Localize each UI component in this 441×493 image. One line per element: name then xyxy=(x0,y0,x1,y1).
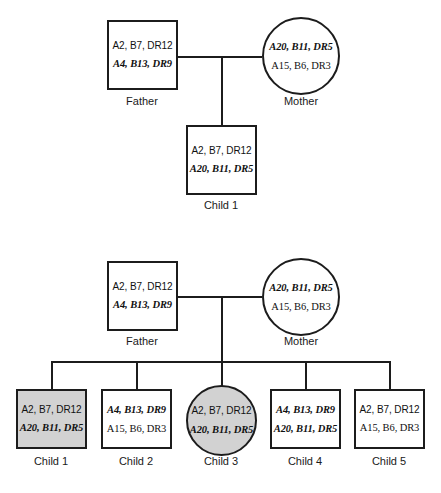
mating-line-1 xyxy=(178,56,262,58)
p2-child-4-haplotype-top: A4, B13, DR9 xyxy=(276,404,335,415)
p2-father-label: Father xyxy=(92,335,192,347)
p1-mother-haplotype-bottom: A15, B6, DR3 xyxy=(271,60,330,71)
p2-child-4-symbol[interactable]: A4, B13, DR9 A20, B11, DR5 xyxy=(270,389,341,449)
sibship-drop-child-2 xyxy=(136,361,138,390)
p2-child-3-haplotype-top: A2, B7, DR12 xyxy=(192,406,252,417)
p2-child-3-symbol[interactable]: A2, B7, DR12 A20, B11, DR5 xyxy=(186,385,257,456)
p2-father-haplotype-top: A2, B7, DR12 xyxy=(113,282,173,293)
p2-mother-symbol[interactable]: A20, B11, DR5 A15, B6, DR3 xyxy=(262,258,340,336)
descent-line-2 xyxy=(221,296,223,363)
p1-child-1-label: Child 1 xyxy=(171,199,271,211)
descent-line-1 xyxy=(221,56,223,125)
p1-child-1-symbol[interactable]: A2, B7, DR12 A20, B11, DR5 xyxy=(186,125,257,195)
pedigree-diagram: A2, B7, DR12 A4, B13, DR9 Father A20, B1… xyxy=(0,0,441,493)
p2-child-5-label: Child 5 xyxy=(339,455,439,467)
p1-father-symbol[interactable]: A2, B7, DR12 A4, B13, DR9 xyxy=(107,20,178,90)
p1-mother-label: Mother xyxy=(251,95,351,107)
p2-child-2-haplotype-bottom: A15, B6, DR3 xyxy=(107,423,166,434)
p2-child-1-symbol[interactable]: A2, B7, DR12 A20, B11, DR5 xyxy=(16,389,87,449)
sibship-drop-child-5 xyxy=(389,361,391,390)
sibship-drop-child-4 xyxy=(305,361,307,390)
p1-father-haplotype-top: A2, B7, DR12 xyxy=(113,41,173,52)
p2-mother-haplotype-bottom: A15, B6, DR3 xyxy=(271,301,330,312)
p2-child-5-haplotype-bottom: A15, B6, DR3 xyxy=(360,422,419,433)
p1-mother-haplotype-top: A20, B11, DR5 xyxy=(269,41,332,52)
p2-child-3-haplotype-bottom: A20, B11, DR5 xyxy=(190,424,253,435)
p2-child-1-haplotype-top: A2, B7, DR12 xyxy=(22,405,82,416)
p1-child-1-haplotype-top: A2, B7, DR12 xyxy=(192,146,252,157)
p1-child-1-haplotype-bottom: A20, B11, DR5 xyxy=(190,163,253,174)
p2-child-2-haplotype-top: A4, B13, DR9 xyxy=(107,404,166,415)
p2-child-5-haplotype-top: A2, B7, DR12 xyxy=(360,405,420,416)
p2-child-4-haplotype-bottom: A20, B11, DR5 xyxy=(274,423,337,434)
sibship-drop-child-1 xyxy=(51,361,53,390)
p1-father-haplotype-bottom: A4, B13, DR9 xyxy=(113,58,172,69)
p2-child-5-symbol[interactable]: A2, B7, DR12 A15, B6, DR3 xyxy=(354,389,425,449)
p2-mother-label: Mother xyxy=(251,335,351,347)
p2-child-1-haplotype-bottom: A20, B11, DR5 xyxy=(20,422,83,433)
p2-child-2-symbol[interactable]: A4, B13, DR9 A15, B6, DR3 xyxy=(101,389,172,449)
p1-father-label: Father xyxy=(92,95,192,107)
p2-father-symbol[interactable]: A2, B7, DR12 A4, B13, DR9 xyxy=(107,261,178,331)
mating-line-2 xyxy=(178,296,262,298)
p2-father-haplotype-bottom: A4, B13, DR9 xyxy=(113,299,172,310)
p1-mother-symbol[interactable]: A20, B11, DR5 A15, B6, DR3 xyxy=(262,17,340,95)
p2-mother-haplotype-top: A20, B11, DR5 xyxy=(269,282,332,293)
